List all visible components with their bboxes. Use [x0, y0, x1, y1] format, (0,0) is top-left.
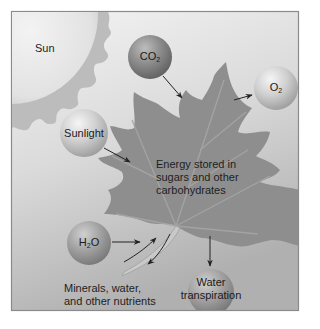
minerals-label: Minerals, water, and other nutrients	[64, 282, 156, 308]
leaf-energy-label: Energy stored in sugars and other carboh…	[156, 158, 239, 197]
h2o-label-base: H	[79, 236, 87, 248]
h2o-label-tail: O	[91, 236, 100, 248]
sun-label: Sun	[35, 42, 55, 55]
water-transpiration-label: Water transpiration	[181, 276, 242, 302]
leaf-energy-line1: Energy stored in	[156, 158, 239, 171]
o2-label-sub: 2	[278, 87, 282, 94]
leaf-energy-line3: carbohydrates	[156, 184, 239, 197]
water-transpiration-line1: Water	[181, 276, 242, 289]
co2-label: CO2	[140, 50, 160, 66]
minerals-line1: Minerals, water,	[64, 282, 156, 295]
minerals-line2: and other nutrients	[64, 295, 156, 308]
o2-label-base: O	[270, 81, 279, 93]
water-transpiration-line2: transpiration	[181, 289, 242, 302]
co2-label-base: CO	[140, 50, 157, 62]
h2o-label: H2O	[79, 236, 99, 252]
sunlight-label: Sunlight	[64, 127, 104, 139]
co2-label-sub: 2	[156, 56, 160, 63]
leaf-energy-line2: sugars and other	[156, 171, 239, 184]
o2-label: O2	[270, 81, 282, 97]
